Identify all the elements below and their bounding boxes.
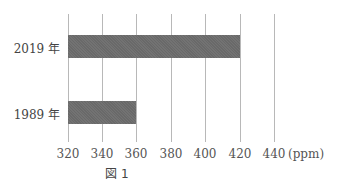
bar-2019 — [68, 35, 240, 58]
x-tick-label: 320 — [53, 147, 83, 161]
category-label-1989: 1989 年 — [0, 105, 60, 122]
gridline-420 — [240, 14, 241, 142]
gridline-400 — [205, 14, 206, 142]
bar-chart: 2019 年 1989 年 320 340 360 380 400 420 44… — [0, 0, 337, 194]
category-label-2019: 2019 年 — [0, 39, 60, 56]
bar-1989 — [68, 101, 136, 124]
x-tick-label: 420 — [225, 147, 255, 161]
x-tick-label: 340 — [87, 147, 117, 161]
x-tick-label: 360 — [121, 147, 151, 161]
x-tick-label: 380 — [156, 147, 186, 161]
gridline-440 — [274, 14, 275, 142]
gridline-380 — [171, 14, 172, 142]
figure-caption: 図 1 — [0, 164, 234, 181]
x-tick-label: 440 — [259, 147, 289, 161]
x-axis-unit: (ppm) — [288, 147, 324, 161]
gridline-360 — [136, 14, 137, 142]
x-tick-label: 400 — [190, 147, 220, 161]
